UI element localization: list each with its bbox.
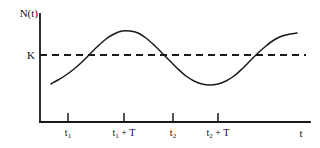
- figure-container: N(t) K t t1 t1 + T t2 t2 + T: [0, 0, 320, 148]
- plot-background: [0, 0, 320, 148]
- tick-label-t1-plus-T: t1 + T: [113, 128, 136, 138]
- plot-area: [0, 0, 320, 148]
- tick-label-t2-plus-T-subscript: 2: [209, 132, 213, 140]
- tick-label-t1-plus-T-suffix: + T: [119, 127, 136, 138]
- carrying-capacity-label: K: [27, 50, 35, 61]
- x-axis-label: t: [299, 128, 302, 139]
- tick-label-t1: t1: [65, 128, 71, 138]
- tick-label-t1-plus-T-subscript: 1: [115, 132, 119, 140]
- tick-label-t2: t2: [170, 128, 176, 138]
- tick-label-t2-subscript: 2: [173, 132, 177, 140]
- tick-label-t2-plus-T: t2 + T: [207, 128, 230, 138]
- tick-label-t2-plus-T-suffix: + T: [213, 127, 230, 138]
- tick-label-t1-subscript: 1: [68, 132, 72, 140]
- y-axis-label: N(t): [20, 8, 38, 19]
